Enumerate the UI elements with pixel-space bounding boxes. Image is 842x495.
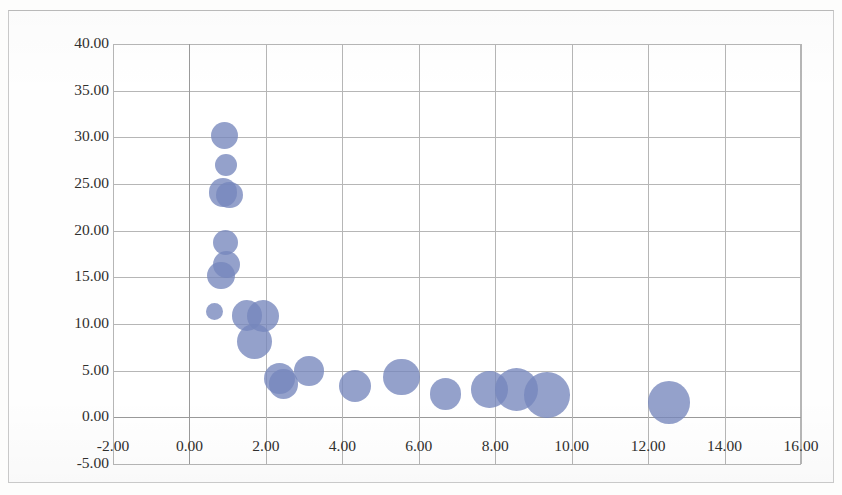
- bubble-series: [113, 44, 801, 464]
- gridline-horizontal: [113, 464, 801, 465]
- y-tick-label: 35.00: [74, 81, 109, 99]
- y-axis-tick-labels: -5.000.005.0010.0015.0020.0025.0030.0035…: [43, 44, 109, 464]
- bubble-point: [206, 303, 223, 320]
- y-tick-label: 15.00: [74, 267, 109, 285]
- y-tick-label: 30.00: [74, 127, 109, 145]
- bubble-point: [216, 182, 242, 208]
- y-tick-label: 5.00: [82, 361, 109, 379]
- bubble-point: [339, 370, 371, 402]
- y-tick-label: 25.00: [74, 174, 109, 192]
- bubble-point: [524, 372, 569, 417]
- bubble-point: [648, 381, 691, 424]
- bubble-point: [215, 154, 237, 176]
- y-tick-label: 0.00: [82, 407, 109, 425]
- scanned-page-frame: -5.000.005.0010.0015.0020.0025.0030.0035…: [8, 10, 834, 483]
- x-tick-label: 6.00: [405, 437, 432, 455]
- x-tick-label: 0.00: [176, 437, 203, 455]
- bubble-point: [207, 262, 235, 290]
- y-tick-label: -5.00: [77, 454, 109, 472]
- bubble-point: [211, 122, 238, 149]
- bubble-point: [430, 378, 462, 410]
- x-tick-label: 8.00: [482, 437, 509, 455]
- bubble-point: [383, 359, 419, 395]
- bubble-point: [294, 356, 324, 386]
- x-tick-label: -2.00: [97, 437, 129, 455]
- x-tick-label: 16.00: [784, 437, 819, 455]
- x-tick-label: 10.00: [554, 437, 589, 455]
- x-tick-label: 4.00: [329, 437, 356, 455]
- plot-area: [113, 44, 801, 464]
- x-tick-label: 2.00: [252, 437, 279, 455]
- bubble-point: [237, 324, 272, 359]
- x-axis-tick-labels: -2.000.002.004.006.008.0010.0012.0014.00…: [113, 437, 801, 461]
- y-tick-label: 10.00: [74, 314, 109, 332]
- y-tick-label: 40.00: [74, 34, 109, 52]
- x-tick-label: 12.00: [631, 437, 666, 455]
- x-tick-label: 14.00: [707, 437, 742, 455]
- gridline-vertical: [801, 44, 802, 464]
- y-tick-label: 20.00: [74, 221, 109, 239]
- screenshot-root: -5.000.005.0010.0015.0020.0025.0030.0035…: [0, 0, 842, 495]
